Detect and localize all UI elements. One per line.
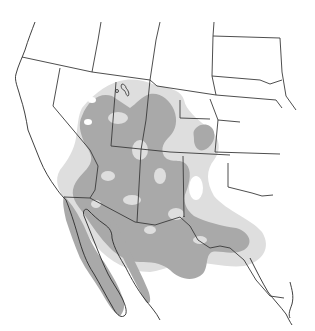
range-map xyxy=(0,0,315,331)
